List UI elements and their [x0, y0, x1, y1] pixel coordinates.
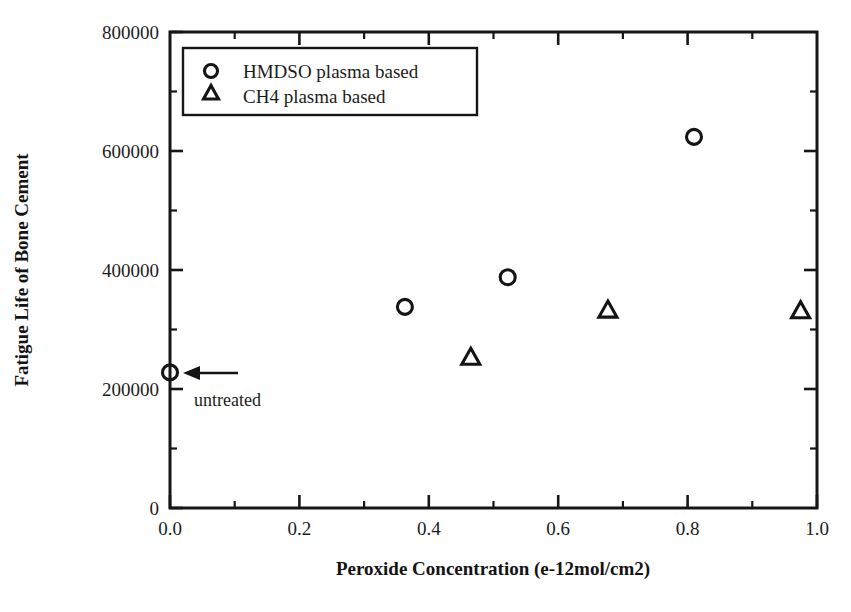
data-point-circle — [687, 129, 702, 144]
x-axis-title: Peroxide Concentration (e-12mol/cm2) — [336, 558, 650, 580]
untreated-annotation: untreated — [183, 366, 261, 410]
y-tick-labels: 0 200000 400000 600000 800000 — [102, 22, 159, 519]
x-tick-label: 0.6 — [546, 518, 570, 539]
scatter-plot: 0.0 0.2 0.4 0.6 0.8 1.0 0 200000 400000 … — [0, 0, 851, 612]
y-axis-major-ticks — [170, 32, 183, 508]
y-tick-label: 400000 — [102, 260, 159, 281]
y-tick-label: 800000 — [102, 22, 159, 43]
x-tick-label: 0.8 — [676, 518, 700, 539]
annotation-label-untreated: untreated — [194, 390, 261, 410]
data-point-triangle — [792, 302, 810, 318]
y-axis-title: Fatigue Life of Bone Cement — [11, 153, 32, 387]
y-tick-label: 600000 — [102, 141, 159, 162]
figure-container: 0.0 0.2 0.4 0.6 0.8 1.0 0 200000 400000 … — [0, 0, 851, 612]
data-point-triangle — [599, 301, 617, 317]
data-point-triangle — [462, 348, 480, 364]
series-ch4-markers — [462, 301, 810, 364]
annotation-arrow-head-icon — [183, 366, 200, 380]
x-tick-label: 0.4 — [417, 518, 441, 539]
x-tick-label: 0.2 — [288, 518, 312, 539]
legend: HMDSO plasma based CH4 plasma based — [183, 48, 477, 115]
y-tick-label: 0 — [150, 498, 160, 519]
legend-label-hmdso: HMDSO plasma based — [243, 61, 419, 82]
right-axis-major-ticks — [804, 151, 817, 389]
x-tick-label: 0.0 — [158, 518, 182, 539]
series-hmdso-markers — [163, 129, 702, 380]
x-tick-labels: 0.0 0.2 0.4 0.6 0.8 1.0 — [158, 518, 829, 539]
data-point-circle — [500, 270, 515, 285]
x-tick-label: 1.0 — [805, 518, 829, 539]
legend-label-ch4: CH4 plasma based — [243, 86, 386, 107]
y-tick-label: 200000 — [102, 379, 159, 400]
data-point-circle — [397, 299, 412, 314]
